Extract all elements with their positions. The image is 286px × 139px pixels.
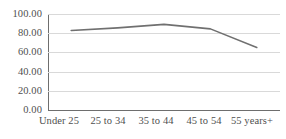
y-tick-label: 80.00 xyxy=(0,28,42,39)
x-axis-line xyxy=(48,110,280,111)
x-tick-label-55-years-plus: 55 years+ xyxy=(219,115,285,126)
plot-area xyxy=(48,14,280,110)
y-tick-label: 20.00 xyxy=(0,86,42,97)
line-chart-figure: 100.00 80.00 60.00 40.00 20.00 0.00 Unde… xyxy=(0,0,286,139)
series-line-series-1 xyxy=(71,24,257,47)
series-line-group xyxy=(48,14,280,110)
y-tick-label: 0.00 xyxy=(0,105,42,116)
y-tick-label: 100.00 xyxy=(0,9,42,20)
y-tick-label: 60.00 xyxy=(0,47,42,58)
y-tick-label: 40.00 xyxy=(0,67,42,78)
